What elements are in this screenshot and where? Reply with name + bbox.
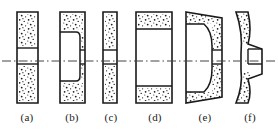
shape-c-thin-wheel xyxy=(103,12,117,103)
shape-b-abrasive-fill-top xyxy=(62,14,83,30)
shape-b-recessed-wheel xyxy=(60,12,85,103)
figure-label-row: (a) (b) (c) (d) (e) (f) xyxy=(0,110,278,130)
figure-label-d: (d) xyxy=(135,110,175,124)
figure-label-e: (e) xyxy=(185,110,225,124)
shape-d-abrasive-fill-top xyxy=(138,14,170,27)
figure-label-b: (b) xyxy=(52,110,92,124)
shape-c-abrasive-fill-bottom xyxy=(105,66,115,101)
shape-e-abrasive-fill-mid-top xyxy=(212,24,222,49)
shape-b-recess-profile xyxy=(60,32,80,81)
shape-d-abrasive-fill-bottom xyxy=(138,88,170,101)
figure-label-a: (a) xyxy=(7,110,47,124)
shape-d-wide-recessed-wheel xyxy=(136,12,172,103)
shape-c-abrasive-fill-top xyxy=(105,14,115,48)
shape-e-recess-profile xyxy=(186,24,212,92)
shape-a-straight-wheel xyxy=(17,12,38,103)
shape-a-abrasive-fill-top xyxy=(19,14,36,46)
grinding-wheel-profiles-figure: (a) (b) (c) (d) (e) (f) xyxy=(0,0,278,136)
shape-f-dish-wheel xyxy=(236,12,262,103)
figure-label-c: (c) xyxy=(91,110,131,124)
shape-e-abrasive-fill-mid-bottom xyxy=(212,65,222,92)
shape-e-tapered-wheel xyxy=(186,12,222,103)
figure-label-f: (f) xyxy=(230,110,270,124)
shape-b-abrasive-fill-bottom xyxy=(62,83,83,101)
shape-a-abrasive-fill-bottom xyxy=(19,66,36,101)
